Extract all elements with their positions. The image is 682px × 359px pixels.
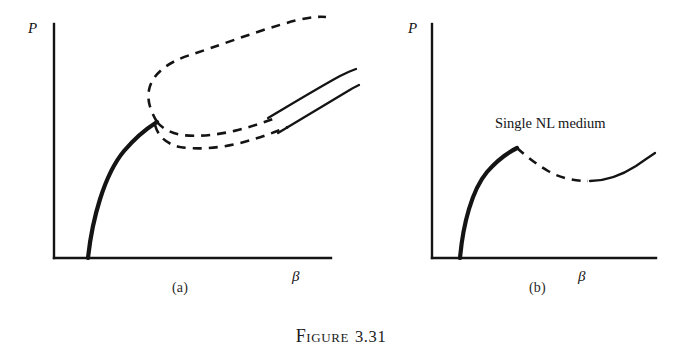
curve-stable-lower-branch-a [88,122,157,258]
y-axis-label-a: P [27,20,37,36]
curve-stable-recovery-branch-b [590,153,655,181]
curve-unstable-loop-outer-lower-a [155,125,288,148]
x-axis-label-b: β [577,268,586,284]
curve-unstable-descending-branch-b [517,148,588,181]
figure-caption-word: Figure [296,326,349,346]
curve-stable-rising-branch-b [460,148,517,258]
chart-svg-a: P β [0,0,360,300]
chart-panel-b: Single NL medium P β [340,0,682,300]
subcaption-a: (a) [172,280,188,296]
figure-caption-number: 3.31 [355,327,386,346]
x-axis-label-a: β [291,268,300,284]
curve-unstable-loop-inner-lower-a [157,117,278,136]
chart-panel-a: P β [0,0,360,300]
figure-caption: Figure3.31 [0,326,682,347]
chart-svg-b: Single NL medium P β [340,0,682,300]
subcaption-b: (b) [529,280,546,296]
figure-container: P β Single NL medium P β (a) (b) Figure3 [0,0,682,359]
curve-unstable-loop-upper-a [148,17,326,122]
y-axis-label-b: P [407,20,417,36]
annotation-single-nl-medium: Single NL medium [495,115,606,131]
